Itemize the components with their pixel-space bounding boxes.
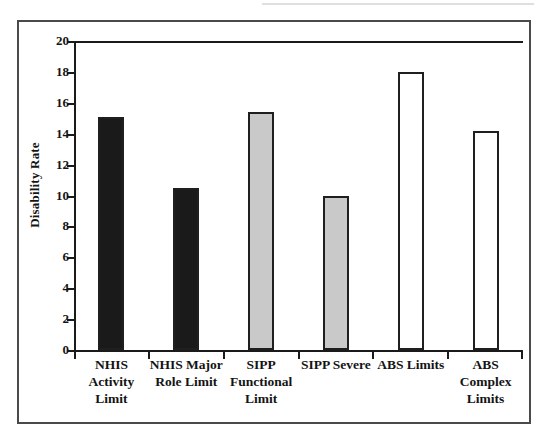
bar: [398, 72, 424, 350]
y-axis-tick-label: 10: [56, 188, 69, 203]
y-axis-tick-label: 8: [63, 218, 70, 233]
bar: [473, 131, 499, 350]
bar: [323, 196, 349, 351]
bar: [248, 112, 274, 350]
x-axis-category-label: NHIS Major Role Limit: [149, 356, 224, 390]
y-axis-title-text: Disability Rate: [27, 142, 43, 228]
x-axis-category-label: SIPP Severe: [299, 356, 374, 373]
y-axis-tick-label: 14: [56, 126, 69, 141]
x-axis-label-group: NHIS Activity LimitNHIS Major Role Limit…: [74, 356, 526, 422]
x-axis-category-label: SIPP Functional Limit: [224, 356, 299, 407]
y-axis-tick-label: 2: [63, 311, 70, 326]
x-axis-category-label: ABS Complex Limits: [448, 356, 523, 407]
y-axis-title: Disability Rate: [26, 120, 44, 250]
y-axis-tick-label: 4: [63, 280, 70, 295]
figure-canvas: Disability Rate 02468101214161820 NHIS A…: [0, 0, 548, 441]
y-axis-tick-label: 16: [56, 95, 69, 110]
y-axis-tick-label: 20: [56, 33, 69, 48]
y-axis-tick-label: 0: [63, 342, 70, 357]
bar: [173, 188, 199, 350]
x-axis-category-label: ABS Limits: [373, 356, 448, 373]
bar: [98, 117, 124, 350]
y-axis-tick-label: 18: [56, 64, 69, 79]
y-axis-tick-label: 6: [63, 249, 70, 264]
plot-top-rule: [74, 41, 523, 43]
y-axis-line: [74, 41, 76, 352]
plot-area: 02468101214161820: [74, 41, 523, 352]
y-axis-tick-label: 12: [56, 157, 69, 172]
x-axis-category-label: NHIS Activity Limit: [74, 356, 149, 407]
scan-artifact-line: [262, 3, 534, 5]
